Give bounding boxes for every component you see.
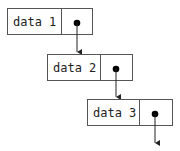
node-2: data 2 xyxy=(48,55,133,98)
node-label: data 2 xyxy=(53,61,96,75)
node-label: data 3 xyxy=(93,106,136,120)
node-3: data 3 xyxy=(88,100,173,144)
linked-list-diagram: data 1 data 2 data 3 xyxy=(0,0,180,151)
node-1: data 1 xyxy=(8,9,93,53)
node-label: data 1 xyxy=(13,15,56,29)
